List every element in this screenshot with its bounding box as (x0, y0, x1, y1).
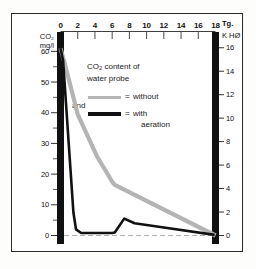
left-tick-label-60: 60 (41, 47, 49, 56)
left-tick-label-30: 30 (41, 139, 49, 148)
right-tick-label-6: 6 (226, 161, 230, 170)
right-tick-label-12: 12 (226, 90, 234, 99)
right-axis-title: K HØ (222, 32, 240, 41)
top-axis-title: Tg. (222, 20, 233, 29)
right-tick-label-14: 14 (226, 67, 234, 76)
right-tick-label-8: 8 (226, 137, 230, 146)
left-axis-title: CO₂ mg/l (24, 33, 54, 50)
legend-conjunction-and: and (72, 101, 85, 110)
right-tick-label-4: 4 (226, 184, 230, 193)
legend-label-with: with (133, 109, 147, 118)
top-tick-label-14: 14 (177, 21, 186, 30)
top-tick-label-12: 12 (160, 21, 169, 30)
top-tick-label-18: 18 (211, 21, 220, 30)
right-tick-label-2: 2 (226, 208, 230, 217)
legend-swatch-without-aeration (88, 96, 121, 99)
top-tick-label-0: 0 (58, 21, 62, 30)
top-tick-label-16: 16 (194, 21, 203, 30)
right-axis-bar (212, 32, 219, 244)
legend-equals-without: = (125, 92, 130, 101)
legend-title-line2: water probe (87, 74, 129, 83)
legend-title-line1: CO2 content of (87, 62, 140, 71)
legend-label-without: without (133, 92, 158, 101)
left-tick-label-50: 50 (41, 78, 49, 87)
legend-label-aeration: aeration (141, 120, 170, 129)
left-tick-label-20: 20 (41, 170, 49, 179)
left-tick-label-10: 10 (41, 200, 49, 209)
chart-figure: CO₂ mg/l Tg. K HØ CO2 content of water p… (0, 0, 256, 269)
left-tick-label-0: 0 (45, 231, 49, 240)
legend-swatch-with-aeration (88, 112, 121, 116)
top-tick-label-4: 4 (93, 21, 97, 30)
left-axis-bar (57, 32, 64, 244)
right-tick-label-10: 10 (226, 114, 234, 123)
legend-equals-with: = (125, 109, 130, 118)
top-tick-label-6: 6 (110, 21, 114, 30)
left-tick-label-40: 40 (41, 108, 49, 117)
right-tick-label-16: 16 (226, 43, 234, 52)
top-tick-label-10: 10 (142, 21, 151, 30)
right-tick-label-0: 0 (226, 231, 230, 240)
top-tick-label-2: 2 (76, 21, 80, 30)
top-tick-label-8: 8 (127, 21, 131, 30)
